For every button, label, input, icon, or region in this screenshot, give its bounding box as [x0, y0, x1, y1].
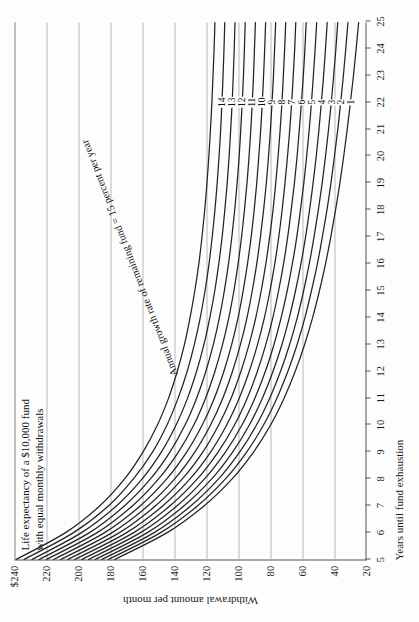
x-tick-mark — [365, 101, 370, 102]
x-tick-label: 20 — [374, 150, 385, 161]
x-tick-mark — [365, 450, 370, 451]
y-tick-label: 180 — [105, 565, 116, 581]
plot-region: 20406080100120140160180200220$240 567891… — [14, 22, 366, 560]
x-tick-label: 6 — [374, 529, 385, 534]
y-tick-label: $240 — [9, 565, 20, 587]
x-tick-mark — [365, 235, 370, 236]
x-tick-mark — [365, 370, 370, 371]
y-tick-label: 160 — [137, 565, 148, 581]
x-tick-label: 8 — [374, 476, 385, 481]
y-tick-label: 20 — [361, 565, 372, 576]
y-tick-label: 200 — [73, 565, 84, 581]
y-tick-label: 220 — [41, 565, 52, 581]
rotated-figure-canvas: Life expectancy of a $10,000 fund with e… — [0, 0, 419, 622]
curve-15 — [16, 22, 215, 559]
x-tick-label: 22 — [374, 96, 385, 107]
x-tick-mark — [365, 47, 370, 48]
x-tick-label: 14 — [374, 312, 385, 323]
x-tick-mark — [365, 155, 370, 156]
x-tick-mark — [365, 397, 370, 398]
x-tick-mark — [365, 343, 370, 344]
x-tick-label: 9 — [374, 449, 385, 454]
x-tick-mark — [365, 262, 370, 263]
x-tick-label: 23 — [374, 70, 385, 81]
series-label-6: 6 — [297, 99, 307, 105]
x-tick-label: 11 — [374, 393, 385, 403]
x-tick-mark — [365, 74, 370, 75]
x-tick-mark — [365, 558, 370, 559]
x-tick-mark — [365, 208, 370, 209]
scanned-chart-page: Life expectancy of a $10,000 fund with e… — [0, 0, 419, 622]
curve-14 — [24, 22, 225, 559]
x-tick-label: 18 — [374, 204, 385, 215]
x-tick-mark — [365, 289, 370, 290]
y-tick-label: 40 — [329, 565, 340, 576]
series-label-5: 5 — [307, 99, 317, 105]
x-axis-title: Years until fund exhaustion — [392, 22, 404, 560]
series-label-14: 14 — [217, 96, 227, 107]
x-tick-label: 19 — [374, 177, 385, 188]
series-label-7: 7 — [287, 99, 297, 105]
series-label-1: 1 — [346, 99, 356, 105]
y-axis-title: Withdrawal amount per month — [14, 594, 366, 606]
x-tick-mark — [365, 316, 370, 317]
y-tick-label: 100 — [233, 565, 244, 581]
x-tick-label: 10 — [374, 419, 385, 430]
x-tick-mark — [365, 504, 370, 505]
x-tick-label: 17 — [374, 231, 385, 242]
series-label-8: 8 — [277, 99, 287, 105]
x-tick-mark — [365, 128, 370, 129]
x-tick-label: 13 — [374, 339, 385, 350]
x-tick-label: 24 — [374, 43, 385, 54]
series-label-12: 12 — [238, 96, 248, 107]
x-tick-mark — [365, 20, 370, 21]
chart-area: Life expectancy of a $10,000 fund with e… — [0, 0, 419, 622]
y-tick-label: 140 — [169, 565, 180, 581]
x-tick-label: 15 — [374, 285, 385, 296]
series-label-13: 13 — [227, 96, 237, 107]
x-tick-label: 12 — [374, 365, 385, 376]
x-tick-mark — [365, 531, 370, 532]
x-tick-label: 7 — [374, 503, 385, 508]
series-label-4: 4 — [317, 99, 327, 105]
series-label-9: 9 — [267, 99, 277, 105]
y-tick-label: 120 — [201, 565, 212, 581]
y-tick-label: 80 — [265, 565, 276, 576]
series-label-11: 11 — [248, 97, 258, 107]
y-tick-label: 60 — [297, 565, 308, 576]
series-label-10: 10 — [258, 96, 268, 107]
x-tick-mark — [365, 424, 370, 425]
x-tick-label: 5 — [374, 556, 385, 561]
x-tick-mark — [365, 477, 370, 478]
series-label-2: 2 — [336, 99, 346, 105]
x-tick-label: 16 — [374, 258, 385, 269]
x-tick-label: 21 — [374, 123, 385, 134]
x-tick-mark — [365, 181, 370, 182]
x-tick-label: 25 — [374, 16, 385, 27]
